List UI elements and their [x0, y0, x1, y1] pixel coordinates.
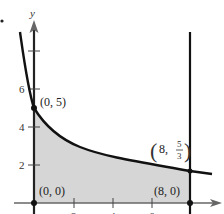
y-tick-label-6: 6 [19, 83, 25, 95]
left-paren: ( [150, 138, 157, 163]
label-8-5-3-prefix: 8, [159, 142, 168, 156]
x-tick-label-2: 2 [71, 210, 77, 214]
y-axis-label: y [29, 7, 35, 19]
label-point-8-5-3: ( 8, 5 3 ) [150, 138, 191, 163]
label-point-0-0: (0, 0) [39, 184, 65, 198]
y-tick-label-2: 2 [19, 159, 25, 171]
label-point-8-0: (8, 0) [154, 184, 180, 198]
point-0-0 [31, 200, 37, 206]
point-8-5-3 [188, 169, 193, 174]
y-tick-label-4: 4 [19, 121, 25, 133]
fraction-numerator: 5 [177, 139, 182, 149]
label-point-0-5: (0, 5) [40, 95, 66, 109]
point-0-5 [31, 105, 37, 111]
fraction-denominator: 3 [177, 151, 182, 161]
chart-canvas: y 6 4 2 2 4 6 (0, 5) (0, 0) (8, 0) ( 8, … [0, 0, 224, 214]
x-tick-label-4: 4 [110, 210, 116, 214]
x-tick-label-6: 6 [149, 210, 155, 214]
right-paren: ) [184, 138, 191, 163]
figure-bullet [0, 19, 3, 22]
point-8-0 [187, 200, 193, 206]
